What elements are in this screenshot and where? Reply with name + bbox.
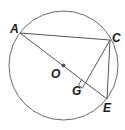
- segment-ce: [107, 40, 110, 99]
- label-g: G: [72, 84, 81, 98]
- circle-diagram: A C E O G: [0, 0, 125, 130]
- segment-ac: [20, 33, 110, 40]
- label-o: O: [51, 67, 61, 81]
- label-e: E: [103, 101, 112, 115]
- segment-cg: [86, 40, 110, 82]
- label-a: A: [9, 22, 19, 36]
- center-dot: [62, 64, 66, 68]
- label-c: C: [112, 31, 121, 45]
